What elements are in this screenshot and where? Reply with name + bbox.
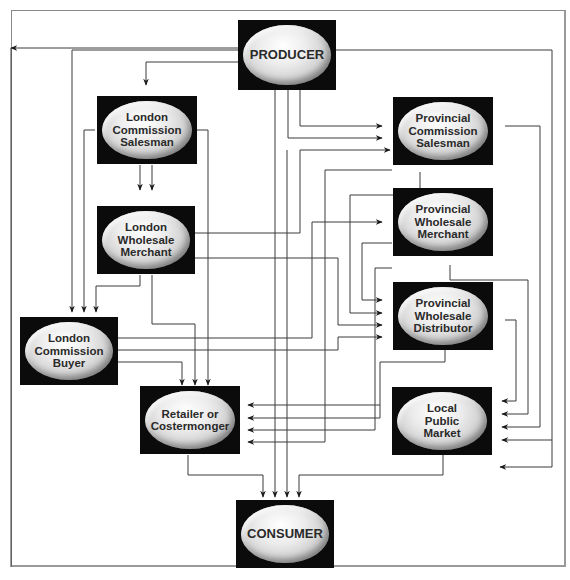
- node-retailer-or-costermonger[interactable]: Retailer or Costermonger: [140, 386, 240, 454]
- edge-lwm-retailer: [152, 275, 195, 385]
- producer-ellipse: PRODUCER: [243, 25, 331, 85]
- consumer-ellipse: CONSUMER: [241, 505, 329, 563]
- edge-producer-pcs-2: [288, 90, 382, 138]
- provincial-wholesale-merchant-ellipse: Provincial Wholesale Merchant: [398, 193, 488, 251]
- edge-producer-pcs-1: [300, 90, 382, 126]
- edge-producer-outer-right: [500, 440, 552, 467]
- provincial-commission-salesman-ellipse: Provincial Commission Salesman: [398, 102, 488, 160]
- node-provincial-commission-salesman[interactable]: Provincial Commission Salesman: [393, 97, 493, 165]
- london-commission-salesman-label: London Commission Salesman: [112, 111, 181, 149]
- producer-label: PRODUCER: [250, 49, 324, 62]
- provincial-wholesale-merchant-label: Provincial Wholesale Merchant: [415, 203, 472, 241]
- edge-lcb-pwd: [118, 337, 382, 350]
- provincial-commission-salesman-label: Provincial Commission Salesman: [408, 112, 477, 150]
- node-provincial-wholesale-merchant[interactable]: Provincial Wholesale Merchant: [393, 188, 493, 256]
- edge-pcs-lpm: [502, 126, 540, 427]
- local-public-market-ellipse: Local Public Market: [397, 392, 487, 450]
- consumer-label: CONSUMER: [247, 528, 323, 541]
- edge-pwm-pwd: [362, 243, 392, 300]
- edge-lwm-lcb-1: [96, 275, 140, 312]
- node-london-wholesale-merchant[interactable]: London Wholesale Merchant: [97, 206, 195, 274]
- node-local-public-market[interactable]: Local Public Market: [392, 387, 492, 455]
- london-wholesale-merchant-label: London Wholesale Merchant: [118, 221, 175, 259]
- edge-pwm-retailer: [248, 268, 392, 430]
- edge-lcb-retailer: [118, 362, 182, 385]
- edge-pwd-retailer-2: [248, 405, 380, 418]
- provincial-wholesale-distributor-label: Provincial Wholesale Distributor: [414, 297, 473, 335]
- node-london-commission-salesman[interactable]: London Commission Salesman: [97, 96, 197, 164]
- london-commission-buyer-label: London Commission Buyer: [34, 332, 103, 370]
- edge-retailer-consumer: [188, 455, 263, 497]
- node-provincial-wholesale-distributor[interactable]: Provincial Wholesale Distributor: [393, 282, 493, 350]
- london-commission-salesman-ellipse: London Commission Salesman: [102, 101, 192, 159]
- edge-pwd-lpm: [502, 320, 516, 401]
- provincial-wholesale-distributor-ellipse: Provincial Wholesale Distributor: [398, 287, 488, 345]
- node-consumer[interactable]: CONSUMER: [236, 500, 334, 568]
- edge-lpm-consumer: [299, 455, 443, 497]
- edge-lwm-pwd: [195, 258, 382, 325]
- node-london-commission-buyer[interactable]: London Commission Buyer: [20, 317, 118, 385]
- london-commission-buyer-ellipse: London Commission Buyer: [25, 322, 113, 380]
- node-producer[interactable]: PRODUCER: [238, 20, 336, 90]
- edge-producer-lcs: [146, 62, 238, 85]
- edge-pcs-retailer: [248, 170, 392, 442]
- retailer-or-costermonger-ellipse: Retailer or Costermonger: [145, 391, 235, 449]
- local-public-market-label: Local Public Market: [423, 402, 460, 440]
- edge-lwm-pcs: [195, 150, 390, 233]
- edge-lcs-lcb: [84, 130, 95, 312]
- retailer-or-costermonger-label: Retailer or Costermonger: [151, 408, 230, 433]
- london-wholesale-merchant-ellipse: London Wholesale Merchant: [102, 211, 190, 269]
